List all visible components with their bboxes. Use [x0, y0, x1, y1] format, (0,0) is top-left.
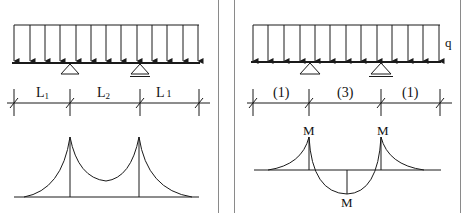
span-label-l1: L1 — [36, 85, 49, 101]
span-label-l2: L2 — [97, 85, 110, 101]
moment-label-support-right: M — [377, 123, 389, 138]
roller-support-icon — [130, 64, 150, 77]
load-label-q: q — [445, 35, 452, 50]
pin-support-icon — [300, 63, 320, 74]
panel-dividers — [219, 0, 461, 213]
span-label-l1-right: L1 — [156, 85, 172, 100]
moment-label-midspan: M — [341, 195, 353, 210]
span-labels-left: L1 L2 L1 — [36, 85, 172, 101]
span-labels-right: (1) (3) (1) — [273, 85, 419, 101]
distributed-load-icon — [253, 25, 440, 61]
right-panel — [247, 25, 452, 194]
moment-diagram-left — [14, 137, 199, 197]
span-label-3: (3) — [337, 85, 354, 101]
moment-diagram-right — [254, 137, 441, 194]
pin-support-icon — [61, 64, 79, 74]
span-label-1: (1) — [273, 85, 290, 101]
beam-moment-diagram: L1 L2 L1 — [0, 0, 462, 213]
roller-support-icon — [369, 63, 393, 77]
left-panel — [7, 25, 210, 197]
moment-label-support-left: M — [303, 123, 315, 138]
distributed-load-icon — [14, 25, 199, 61]
span-label-1-right: (1) — [402, 85, 419, 101]
